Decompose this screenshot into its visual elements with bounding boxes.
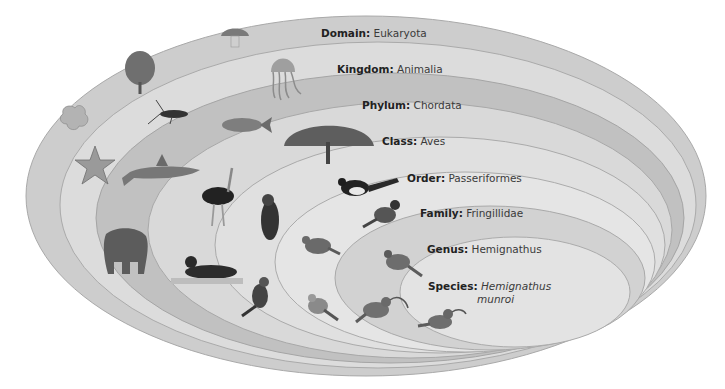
taxon-family: Fringillidae (466, 207, 523, 219)
rank-order: Order (407, 172, 441, 184)
rank-kingdom: Kingdom (337, 63, 389, 75)
taxon-kingdom: Animalia (397, 63, 443, 75)
taxon-genus: Hemignathus (472, 243, 542, 255)
rank-phylum: Phylum (362, 99, 406, 111)
taxon-phylum: Chordata (414, 99, 462, 111)
label-species: Species: Hemignathus (428, 280, 551, 292)
label-domain: Domain: Eukaryota (321, 27, 427, 39)
taxonomy-ellipse-diagram (0, 0, 725, 389)
label-family: Family: Fringillidae (420, 207, 523, 219)
rank-genus: Genus (427, 243, 464, 255)
taxon-species-epithet: munroi (477, 293, 514, 305)
label-order: Order: Passeriformes (407, 172, 522, 184)
elephant-icon (104, 228, 148, 274)
label-genus: Genus: Hemignathus (427, 243, 542, 255)
label-phylum: Phylum: Chordata (362, 99, 462, 111)
taxon-species-genus: Hemignathus (481, 280, 551, 292)
taxon-class: Aves (420, 135, 445, 147)
rank-domain: Domain (321, 27, 366, 39)
rank-class: Class (382, 135, 413, 147)
label-class: Class: Aves (382, 135, 445, 147)
taxon-order: Passeriformes (448, 172, 521, 184)
rank-family: Family (420, 207, 459, 219)
rank-species: Species (428, 280, 473, 292)
label-species-epithet: munroi (477, 293, 514, 305)
taxon-domain: Eukaryota (374, 27, 427, 39)
label-kingdom: Kingdom: Animalia (337, 63, 443, 75)
